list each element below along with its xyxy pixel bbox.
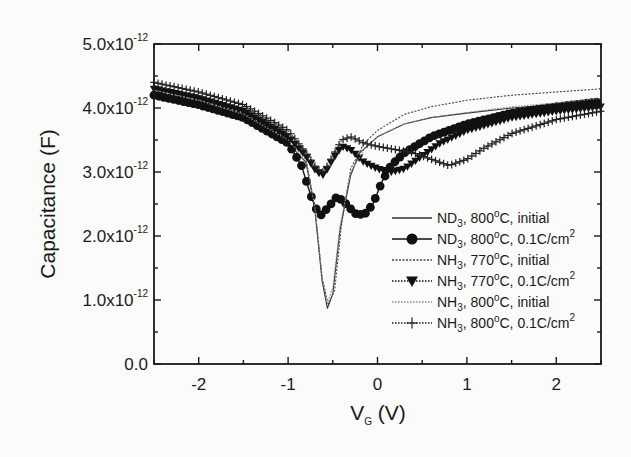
legend-entry: NH3, 800oC, initial <box>392 292 549 313</box>
legend-entry: NH3, 800oC, 0.1C/cm2 <box>392 312 576 334</box>
x-tick-label: -1 <box>281 375 296 394</box>
circle-marker <box>292 153 301 162</box>
y-tick-label: 1.0x10-12 <box>83 288 149 310</box>
y-tick-label: 2.0x10-12 <box>83 224 149 246</box>
legend-label: NH3, 800oC, 0.1C/cm2 <box>437 312 576 334</box>
legend-entry: ND3, 800oC, initial <box>392 208 549 229</box>
legend-label: NH3, 800oC, initial <box>437 292 549 313</box>
legend-label: ND3, 800oC, 0.1C/cm2 <box>437 228 576 250</box>
legend-entry: ND3, 800oC, 0.1C/cm2 <box>392 228 576 250</box>
capacitance-voltage-chart: -2-1012 0.01.0x10-122.0x10-123.0x10-124.… <box>0 0 631 457</box>
legend-entry: NH3, 770oC, 0.1C/cm2 <box>392 270 576 292</box>
y-tick-label: 0.0 <box>124 355 148 374</box>
x-tick-label: 2 <box>552 375 561 394</box>
y-axis-title: Capacitance (F) <box>36 129 59 278</box>
legend-label: NH3, 770oC, 0.1C/cm2 <box>437 270 576 292</box>
circle-marker <box>366 203 375 212</box>
circle-marker <box>407 234 418 245</box>
series-1 <box>150 91 601 219</box>
y-tick-label: 3.0x10-12 <box>83 160 149 182</box>
legend-entry: NH3, 770oC, initial <box>392 250 549 271</box>
x-tick-label: 0 <box>373 375 382 394</box>
chart-canvas: -2-1012 0.01.0x10-122.0x10-123.0x10-124.… <box>0 0 631 457</box>
legend-label: ND3, 800oC, initial <box>437 208 549 229</box>
y-tick-label: 4.0x10-12 <box>83 96 149 118</box>
circle-marker <box>376 182 385 191</box>
triangle-marker <box>406 277 418 288</box>
circle-marker <box>297 161 306 170</box>
legend: ND3, 800oC, initialND3, 800oC, 0.1C/cm2N… <box>392 208 576 334</box>
x-tick-label: 1 <box>462 375 471 394</box>
circle-marker <box>371 194 380 203</box>
x-axis-title: VG (V) <box>350 401 406 427</box>
x-tick-label: -2 <box>191 375 206 394</box>
circle-marker <box>307 192 316 201</box>
y-tick-label: 5.0x10-12 <box>83 32 149 54</box>
legend-label: NH3, 770oC, initial <box>437 250 549 271</box>
